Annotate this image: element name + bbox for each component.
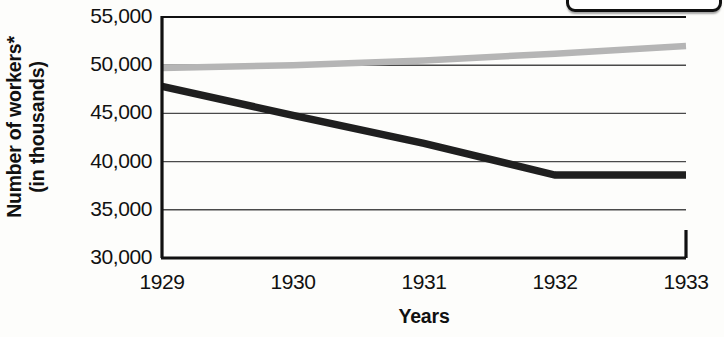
x-axis-title: Years bbox=[162, 305, 686, 328]
x-tick-1932: 1932 bbox=[500, 270, 610, 294]
x-tick-1933: 1933 bbox=[631, 270, 724, 294]
gridlines bbox=[162, 65, 686, 210]
x-tick-1930: 1930 bbox=[238, 270, 348, 294]
x-tick-1929: 1929 bbox=[107, 270, 217, 294]
x-tick-1931: 1931 bbox=[369, 270, 479, 294]
chart-figure: Number of workers* (in thousands) 55,000… bbox=[0, 0, 724, 337]
